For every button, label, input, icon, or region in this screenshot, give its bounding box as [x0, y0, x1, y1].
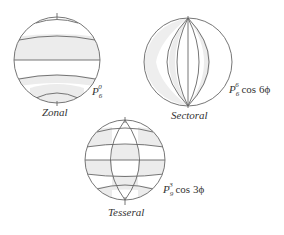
- tesseral-function-label: P93 cos 3ϕ: [162, 181, 204, 198]
- zonal-function-label: P60: [91, 83, 103, 100]
- sectoral-label: Sectoral: [171, 109, 208, 121]
- tesseral-label: Tesseral: [108, 206, 144, 218]
- zonal-label: Zonal: [42, 106, 68, 118]
- sectoral-sphere: [144, 16, 232, 108]
- sectoral-function-label: P66 cos 6ϕ: [228, 81, 270, 98]
- zonal-sphere: [10, 13, 104, 106]
- tesseral-sphere: [85, 117, 165, 205]
